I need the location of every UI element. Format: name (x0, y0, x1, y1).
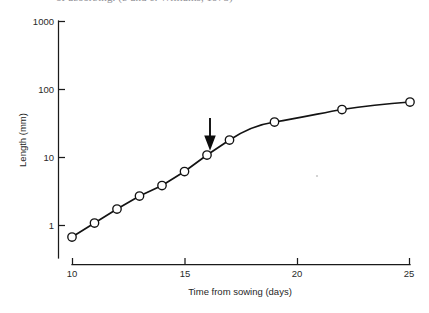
data-point (406, 98, 414, 106)
data-point (203, 151, 211, 159)
data-point (180, 167, 188, 175)
data-series-curve (72, 102, 410, 237)
x-axis-ticks (73, 258, 410, 265)
scan-speck (316, 175, 318, 177)
x-tick-label-20: 20 (292, 268, 303, 279)
y-tick-label-1000: 1000 (33, 16, 54, 27)
data-point (113, 205, 121, 213)
data-point (135, 192, 143, 200)
growth-curve-figure: 1000 100 10 1 10 15 20 25 Time from sowi… (0, 0, 429, 313)
x-axis-title: Time from sowing (days) (188, 286, 292, 297)
data-point (90, 219, 98, 227)
y-tick-label-10: 10 (43, 152, 54, 163)
y-axis-title: Length (mm) (17, 113, 28, 167)
x-tick-label-15: 15 (180, 268, 191, 279)
x-tick-label-10: 10 (67, 268, 78, 279)
data-point (68, 233, 76, 241)
data-point (338, 105, 346, 113)
y-tick-label-100: 100 (38, 84, 54, 95)
data-markers (68, 98, 414, 241)
data-point (225, 136, 233, 144)
annotation-arrow-down-icon (206, 118, 215, 148)
y-axis-ticks (59, 22, 66, 226)
x-tick-label-25: 25 (404, 268, 415, 279)
data-point (158, 181, 166, 189)
y-tick-label-1: 1 (49, 220, 54, 231)
chart-plot-area: 1000 100 10 1 10 15 20 25 Time from sowi… (0, 0, 429, 313)
data-point (270, 118, 278, 126)
